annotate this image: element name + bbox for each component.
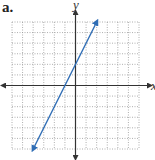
axes (3, 12, 150, 158)
coordinate-plane (0, 0, 155, 160)
